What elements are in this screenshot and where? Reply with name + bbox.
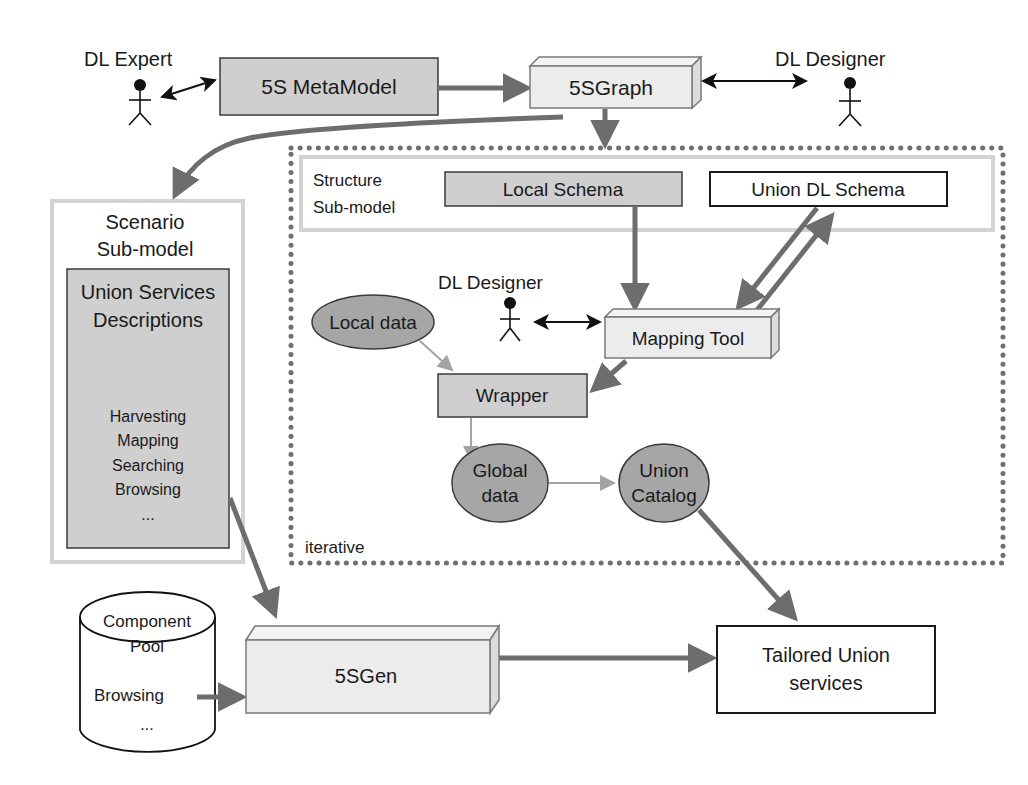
dl-designer-top-label: DL Designer [775, 48, 886, 70]
structure-submodel-label-2: Sub-model [313, 198, 395, 217]
local-schema-label: Local Schema [503, 179, 624, 200]
dl-expert-label: DL Expert [84, 48, 173, 70]
service-item-searching: Searching [112, 457, 184, 474]
catalog-to-tailored-arrow [699, 510, 793, 616]
dl-designer-inner-label: DL Designer [438, 272, 544, 293]
union-services-title: Union Services [81, 281, 216, 303]
graph-label: 5SGraph [569, 76, 653, 99]
graph-node[interactable]: 5SGraph [530, 57, 701, 108]
union-catalog-label: Union [639, 460, 689, 481]
union-dl-schema-label: Union DL Schema [751, 179, 905, 200]
mapping-tool-node[interactable]: Mapping Tool [605, 309, 779, 358]
scenario-submodel-label: Scenario [106, 211, 185, 233]
union-dl-schema-node[interactable]: Union DL Schema [710, 172, 947, 206]
metamodel-label: 5S MetaModel [261, 75, 396, 98]
structure-submodel-label: Structure [313, 171, 382, 190]
metamodel-node[interactable]: 5S MetaModel [220, 58, 438, 115]
gen-node[interactable]: 5SGen [246, 626, 499, 713]
global-data-node[interactable]: Global data [452, 444, 548, 522]
local-data-to-wrapper-arrow [420, 341, 452, 370]
scenario-submodel-label-2: Sub-model [97, 238, 194, 260]
tailored-services-node[interactable]: Tailored Union services [717, 626, 935, 713]
component-pool-label-2: Pool [130, 637, 164, 656]
service-item-more: ... [141, 506, 154, 523]
component-pool-item-more: ... [140, 716, 153, 733]
dl-expert-figure-icon [129, 79, 151, 125]
union-catalog-node[interactable]: Union Catalog [619, 444, 709, 522]
tailored-services-label-2: services [789, 672, 862, 694]
expert-metamodel-link [162, 80, 215, 97]
dl-designer-inner-figure-icon [500, 297, 520, 341]
component-pool-item-browsing: Browsing [94, 686, 164, 705]
service-item-browsing: Browsing [115, 481, 181, 498]
union-services-descriptions-node[interactable]: Union Services Descriptions Harvesting M… [67, 269, 229, 548]
tailored-services-label: Tailored Union [762, 644, 890, 666]
wrapper-node[interactable]: Wrapper [438, 374, 587, 417]
global-data-label: Global [473, 460, 528, 481]
mapping-tool-label: Mapping Tool [632, 328, 745, 349]
service-item-mapping: Mapping [117, 432, 178, 449]
dl-designer-top-figure-icon [839, 77, 861, 126]
wrapper-label: Wrapper [476, 385, 549, 406]
iterative-label: iterative [305, 538, 365, 557]
global-data-label-2: data [482, 485, 519, 506]
union-schema-to-mapping-arrow [740, 208, 817, 305]
component-pool-node[interactable]: Component Pool Browsing ... [80, 592, 215, 752]
local-data-label: Local data [329, 312, 417, 333]
mapping-to-wrapper-arrow [595, 361, 626, 388]
local-schema-node[interactable]: Local Schema [445, 172, 682, 206]
diagram-canvas: iterative Structure Sub-model Local Sche… [0, 0, 1028, 785]
service-item-harvesting: Harvesting [110, 408, 186, 425]
union-catalog-label-2: Catalog [631, 485, 697, 506]
gen-label: 5SGen [335, 665, 397, 687]
local-data-node[interactable]: Local data [312, 295, 434, 349]
component-pool-label: Component [103, 612, 191, 631]
union-services-title-2: Descriptions [93, 309, 203, 331]
scenario-to-gen-arrow [230, 498, 274, 612]
